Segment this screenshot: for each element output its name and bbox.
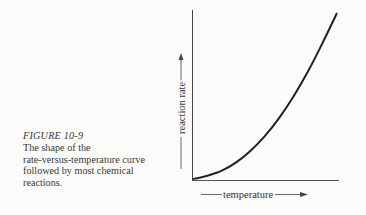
arrow-up-icon <box>179 53 184 60</box>
x-axis-label-group: temperature <box>201 189 308 200</box>
arrow-right-icon <box>300 192 308 197</box>
rate-curve <box>193 13 337 179</box>
x-axis-label: temperature <box>223 189 273 200</box>
y-axis-label-group: reaction rate <box>176 53 187 169</box>
chart: reaction rate temperature <box>0 0 366 215</box>
y-axis-label: reaction rate <box>176 81 187 134</box>
